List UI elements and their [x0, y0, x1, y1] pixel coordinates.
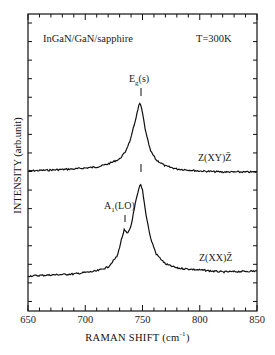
a1lo-peak-label: A1(LO) — [104, 200, 135, 214]
x-tick-label: 800 — [192, 314, 208, 325]
zxx-series-label: Z(XX)Z̄ — [199, 252, 232, 263]
zxy-series-label: Z(XY)Z̄ — [198, 152, 231, 163]
x-tick-label: 650 — [20, 314, 36, 325]
sample-label: InGaN/GaN/sapphire — [43, 33, 133, 44]
a1-tail: (LO) — [115, 200, 135, 211]
raman-chart — [0, 0, 275, 355]
xlabel-tail: ) — [186, 332, 190, 343]
x-tick-label: 700 — [77, 314, 93, 325]
eg-tail: (s) — [139, 73, 150, 84]
x-tick-label: 750 — [135, 314, 151, 325]
xlabel-main: RAMAN SHIFT (cm — [85, 332, 179, 343]
x-axis-label: RAMAN SHIFT (cm-1) — [0, 330, 275, 343]
x-tick-label: 850 — [249, 314, 265, 325]
temperature-label: T=300K — [196, 33, 232, 44]
eg-peak-label: Eg(s) — [129, 73, 149, 87]
y-axis-label: INTENSITY (arb.unit) — [12, 111, 23, 221]
